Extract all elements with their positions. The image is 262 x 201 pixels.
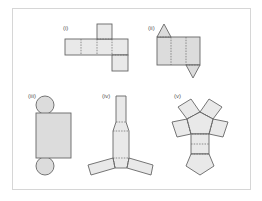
net-label-iii: (iii) (28, 93, 36, 99)
net-label-v: (v) (174, 93, 181, 99)
cylinder-bottom-circle (36, 157, 54, 175)
frustum-right-arm (127, 158, 153, 175)
cube-row (65, 39, 128, 55)
nets-diagram: (i) (ii) (iii) (iv) (0, 0, 262, 201)
net-pentagonal-prism: (v) (172, 93, 228, 175)
frustum-column (113, 96, 129, 168)
frustum-left-arm (88, 158, 115, 175)
net-frustum: (iv) (88, 93, 153, 175)
prism-rectangle (157, 37, 200, 65)
net-label-ii: (ii) (148, 25, 155, 31)
net-cylinder: (iii) (28, 93, 71, 175)
pentagon-bottom-face (186, 154, 214, 175)
cube-top-face (97, 24, 112, 39)
net-label-i: (i) (63, 25, 68, 31)
prism-top-triangle (157, 24, 171, 37)
net-triangular-prism: (ii) (148, 24, 200, 78)
net-label-iv: (iv) (102, 93, 110, 99)
cylinder-lateral-face (36, 113, 71, 158)
net-cube: (i) (63, 24, 128, 71)
cube-bottom-face (112, 55, 128, 71)
cylinder-top-circle (36, 96, 54, 114)
prism-bottom-triangle (186, 65, 200, 78)
